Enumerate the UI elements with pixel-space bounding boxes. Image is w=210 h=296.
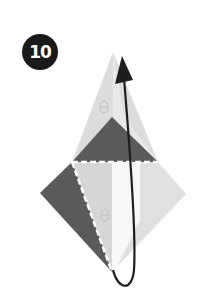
origami-diagram [0, 0, 210, 296]
